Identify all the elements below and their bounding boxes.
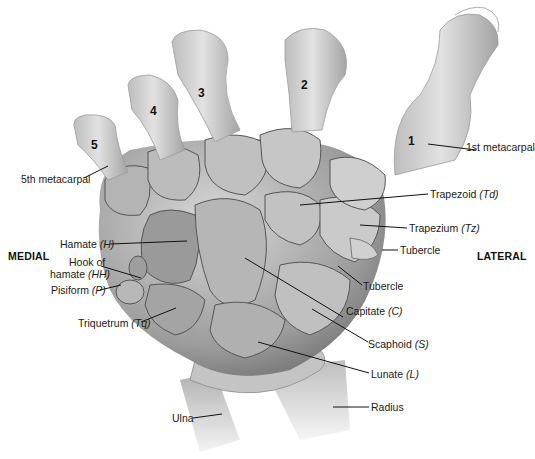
trapezium-name: Trapezium — [409, 222, 458, 234]
label-scaphoid: Scaphoid (S) — [368, 338, 429, 350]
label-radius: Radius — [371, 401, 404, 413]
label-pisiform: Pisiform (P) — [51, 284, 106, 296]
label-hamate: Hamate (H) — [60, 238, 114, 250]
label-capitate: Capitate (C) — [346, 305, 403, 317]
trapezoid-abbr: (Td) — [479, 188, 498, 200]
scaphoid-abbr: (S) — [415, 338, 429, 350]
label-lunate: Lunate (L) — [371, 368, 419, 380]
label-hook-of-hamate-line2: hamate (HH) — [50, 268, 110, 280]
scaphoid-name: Scaphoid — [368, 338, 412, 350]
pisiform-abbr: (P) — [92, 284, 106, 296]
triquetrum-abbr: (Tq) — [131, 317, 150, 329]
label-1st-metacarpal: 1st metacarpal — [466, 141, 535, 153]
label-tubercle-scaphoid: Tubercle — [363, 280, 403, 292]
trapezium-abbr: (Tz) — [461, 222, 480, 234]
metacarpal-number-3: 3 — [198, 86, 205, 100]
capitate-abbr: (C) — [388, 305, 403, 317]
metacarpal-number-4: 4 — [150, 104, 157, 118]
lunate-abbr: (L) — [406, 368, 419, 380]
lateral-label: LATERAL — [477, 250, 527, 262]
hook-of-hamate-name: hamate — [50, 268, 85, 280]
label-tubercle-trapezium: Tubercle — [400, 244, 440, 256]
hook-of-hamate-abbr: (HH) — [88, 268, 110, 280]
triquetrum-name: Triquetrum — [78, 317, 128, 329]
lunate-name: Lunate — [371, 368, 403, 380]
metacarpal-number-1: 1 — [408, 134, 415, 148]
label-triquetrum: Triquetrum (Tq) — [78, 317, 151, 329]
metacarpal-number-5: 5 — [91, 138, 98, 152]
medial-label: MEDIAL — [8, 250, 49, 262]
label-trapezium: Trapezium (Tz) — [409, 222, 480, 234]
hamate-abbr: (H) — [100, 238, 115, 250]
label-ulna: Ulna — [172, 412, 194, 424]
label-trapezoid: Trapezoid (Td) — [430, 188, 498, 200]
pisiform-name: Pisiform — [51, 284, 89, 296]
label-5th-metacarpal: 5th metacarpal — [21, 173, 90, 185]
trapezoid-name: Trapezoid — [430, 188, 476, 200]
metacarpal-number-2: 2 — [301, 78, 308, 92]
capitate-name: Capitate — [346, 305, 385, 317]
hamate-name: Hamate — [60, 238, 97, 250]
label-hook-of-hamate-line1: Hook of — [69, 256, 105, 268]
